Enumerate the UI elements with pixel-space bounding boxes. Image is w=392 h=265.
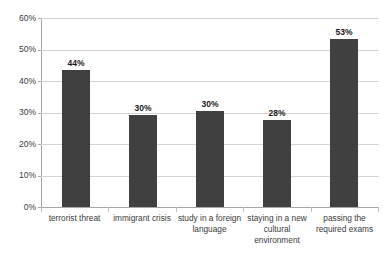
bar-chart: 60% 50% 40% 30% 20% 10% 0% 44% 30% 30% 2… xyxy=(0,0,392,265)
gridline-40 xyxy=(41,81,379,82)
data-label-immigrant-crisis: 30% xyxy=(120,103,166,113)
x-axis-tick-4 xyxy=(311,207,312,212)
y-tick-label-40: 40% xyxy=(0,76,36,86)
y-tick-label-30: 30% xyxy=(0,107,36,117)
x-axis-label-passing-required-exams: passing the required exams xyxy=(311,213,378,235)
y-tick-label-0: 0% xyxy=(0,202,36,212)
bar-terrorist-threat[interactable] xyxy=(62,70,90,207)
plot-area: 44% 30% 30% 28% 53% xyxy=(41,18,379,207)
x-axis-label-immigrant-crisis: immigrant crisis xyxy=(108,213,176,224)
data-label-staying-new-culture: 28% xyxy=(254,108,300,118)
gridline-60 xyxy=(41,18,379,19)
x-axis-line xyxy=(41,207,379,208)
x-axis-tick-1 xyxy=(108,207,109,212)
bar-immigrant-crisis[interactable] xyxy=(129,115,157,207)
gridline-50 xyxy=(41,50,379,51)
bar-passing-required-exams[interactable] xyxy=(330,39,358,208)
x-axis-tick-0 xyxy=(41,207,42,212)
y-tick-label-20: 20% xyxy=(0,139,36,149)
bar-staying-new-culture[interactable] xyxy=(263,120,291,207)
x-axis-label-terrorist-threat: terrorist threat xyxy=(41,213,108,224)
x-axis-tick-5 xyxy=(378,207,379,212)
x-axis-tick-3 xyxy=(243,207,244,212)
data-label-terrorist-threat: 44% xyxy=(53,58,99,68)
y-tick-label-10: 10% xyxy=(0,170,36,180)
bar-study-foreign-language[interactable] xyxy=(196,111,224,207)
y-tick-label-50: 50% xyxy=(0,44,36,54)
data-label-passing-required-exams: 53% xyxy=(321,27,367,37)
y-tick-label-60: 60% xyxy=(0,13,36,23)
x-axis-label-study-foreign-language: study in a foreign language xyxy=(176,213,243,235)
data-label-study-foreign-language: 30% xyxy=(187,99,233,109)
x-axis-label-staying-new-culture: staying in a new cultural environment xyxy=(243,213,311,246)
x-axis-tick-2 xyxy=(176,207,177,212)
